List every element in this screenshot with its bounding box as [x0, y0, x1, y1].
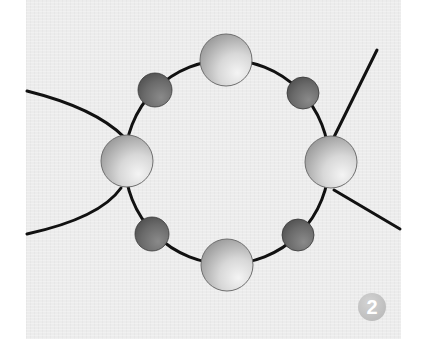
large-bead-left: [101, 135, 153, 187]
large-bead-bottom: [201, 239, 253, 291]
small-beads: [135, 73, 319, 251]
small-bead-top-left: [138, 73, 172, 107]
large-beads: [101, 34, 357, 291]
thread-tail-left-upper: [27, 91, 124, 137]
large-bead-right: [305, 136, 357, 188]
thread-tail-right-lower: [334, 190, 400, 229]
large-bead-top: [200, 34, 252, 86]
thread-tail-right-upper: [334, 50, 377, 137]
small-bead-bottom-right: [282, 219, 314, 251]
small-bead-bottom-left: [135, 217, 169, 251]
thread-tail-left-lower: [27, 188, 121, 234]
small-bead-top-right: [287, 77, 319, 109]
step-number-badge: 2: [358, 293, 386, 321]
